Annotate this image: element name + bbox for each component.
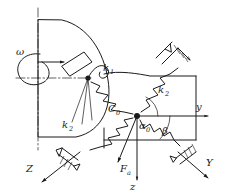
- k2-left-subscript: 2: [68, 125, 73, 133]
- rotating-body: [38, 20, 109, 137]
- alpha0-subscript: 0: [146, 126, 150, 134]
- axis-Z-label: Z: [25, 163, 34, 174]
- C0-label: C: [108, 103, 116, 114]
- axis-Y-label: Y: [206, 157, 214, 168]
- Fa-subscript: a: [127, 169, 131, 177]
- omega-rotation-arrow: [18, 54, 64, 85]
- axis-y-label: y: [195, 101, 202, 112]
- beta-label: β: [161, 125, 168, 136]
- rotor-centerline: [16, 8, 92, 150]
- angle-alpha0-arc: [146, 97, 158, 116]
- contact-radiating-lines: [72, 78, 92, 124]
- k1-label: k: [103, 62, 109, 73]
- diagram-canvas: ω k: [0, 0, 226, 194]
- axis-z-label: z: [129, 181, 136, 192]
- upper-right-ground-hatch: [156, 42, 190, 64]
- alpha0-label: α: [139, 120, 146, 131]
- k1-subscript: 1: [110, 68, 114, 76]
- k2-left-label: k: [62, 119, 68, 130]
- k2-spring-lower-left: [90, 118, 133, 150]
- contact-block: [62, 52, 92, 76]
- C0-subscript: 0: [116, 109, 120, 117]
- omega-label: ω: [16, 46, 24, 57]
- lower-right-ground-hatch: [170, 144, 208, 178]
- lower-left-ground-hatch: [42, 148, 80, 182]
- mechanical-diagram: ω k: [0, 0, 226, 194]
- k2-right-subscript: 2: [164, 90, 169, 98]
- k2-right-label: k: [158, 84, 164, 95]
- force-Fa-vector: [118, 116, 137, 162]
